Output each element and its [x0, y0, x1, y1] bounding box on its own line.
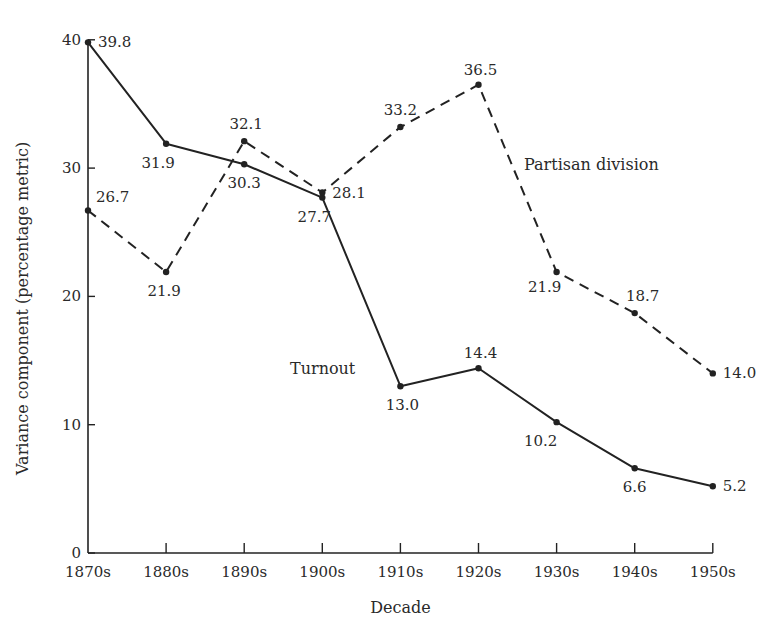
data-point [397, 124, 403, 130]
x-tick-label: 1920s [456, 563, 502, 581]
data-point [85, 207, 91, 213]
x-tick-label: 1940s [612, 563, 658, 581]
data-point [397, 383, 403, 389]
x-tick-label: 1880s [143, 563, 189, 581]
data-point-label: 18.7 [626, 287, 659, 305]
data-point-label: 6.6 [623, 478, 647, 496]
data-point [163, 269, 169, 275]
data-point-label: 27.7 [298, 208, 331, 226]
data-point [475, 365, 481, 371]
x-tick-label: 1950s [690, 563, 736, 581]
data-point [163, 141, 169, 147]
turnout-series-label: Turnout [290, 359, 356, 378]
data-point [710, 483, 716, 489]
data-point-label: 13.0 [386, 396, 419, 414]
data-point-label: 36.5 [464, 61, 497, 79]
data-point [710, 370, 716, 376]
y-tick-label: 40 [62, 31, 81, 49]
data-point [475, 82, 481, 88]
data-point-label: 5.2 [723, 477, 747, 495]
data-point [553, 419, 559, 425]
data-point-label: 14.0 [723, 364, 756, 382]
data-point-label: 21.9 [528, 278, 561, 296]
data-point-label: 31.9 [141, 154, 174, 172]
x-tick-label: 1930s [534, 563, 580, 581]
x-tick-label: 1910s [377, 563, 423, 581]
data-point-label: 39.8 [98, 33, 131, 51]
data-point-label: 28.1 [332, 184, 365, 202]
data-point-label: 32.1 [229, 115, 262, 133]
data-point [553, 269, 559, 275]
data-point [241, 161, 247, 167]
x-tick-label: 1870s [65, 563, 111, 581]
y-tick-label: 0 [71, 544, 81, 562]
data-point [632, 465, 638, 471]
data-point-label: 14.4 [464, 344, 497, 362]
data-point [632, 310, 638, 316]
data-point-label: 33.2 [384, 101, 417, 119]
y-tick-label: 30 [62, 159, 81, 177]
data-point-label: 26.7 [96, 188, 129, 206]
labels-layer: 39.831.930.327.713.014.410.26.65.226.721… [96, 33, 756, 496]
line-chart: 0102030401870s1880s1890s1900s1910s1920s1… [0, 0, 782, 643]
x-tick-label: 1890s [221, 563, 267, 581]
x-axis-title: Decade [370, 598, 431, 617]
data-point-label: 21.9 [147, 282, 180, 300]
data-point-label: 10.2 [524, 432, 557, 450]
y-tick-label: 10 [62, 416, 81, 434]
data-point [319, 189, 325, 195]
data-point-label: 30.3 [227, 174, 260, 192]
data-point [241, 138, 247, 144]
y-axis-title: Variance component (percentage metric) [13, 142, 32, 476]
y-tick-label: 20 [62, 287, 81, 305]
data-point [85, 39, 91, 45]
x-tick-label: 1900s [299, 563, 345, 581]
partisan-division-series-label: Partisan division [524, 155, 659, 174]
